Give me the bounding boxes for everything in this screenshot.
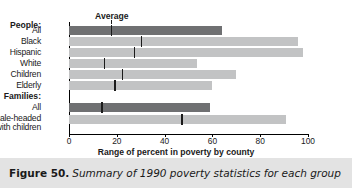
x-tick-label-0: 0: [67, 137, 72, 146]
chart-panel: Average People:AllBlackHispanicWhiteChil…: [0, 0, 352, 150]
average-marker: [141, 36, 142, 47]
bar-white: [69, 59, 197, 68]
bar-elderly: [69, 81, 212, 90]
category-label-elderly: Elderly: [16, 81, 41, 90]
average-annotation-leader: [111, 20, 112, 24]
figure-container: Average People:AllBlackHispanicWhiteChil…: [0, 0, 352, 188]
average-marker: [122, 69, 123, 80]
x-tick-label-40: 40: [160, 137, 169, 146]
bar-hispanic: [69, 48, 303, 57]
figure-caption: Figure 50. Summary of 1990 poverty stati…: [0, 167, 341, 179]
x-axis-line: [69, 134, 309, 135]
bar-black: [69, 37, 298, 46]
figure-number: Figure 50.: [9, 167, 69, 179]
bar-row: [69, 59, 308, 68]
average-marker: [134, 47, 135, 58]
bar-all: [69, 103, 210, 112]
average-marker: [181, 114, 182, 125]
x-tick-label-20: 20: [112, 137, 121, 146]
bar-row: [69, 48, 308, 57]
figure-caption-text: Summary of 1990 poverty statistics for e…: [72, 167, 341, 179]
figure-caption-bar: Figure 50. Summary of 1990 poverty stati…: [0, 158, 352, 188]
x-tick-label-80: 80: [256, 137, 265, 146]
bar-female-headed: [69, 115, 286, 124]
average-marker: [104, 58, 105, 69]
average-marker: [114, 80, 115, 91]
category-label-white: White: [20, 59, 41, 68]
category-label-all: All: [32, 103, 41, 112]
average-marker: [101, 102, 102, 113]
category-label-female-headed: Female-headedwith children: [0, 114, 41, 131]
bar-row: [69, 115, 308, 124]
average-marker: [111, 25, 112, 36]
group-header-families: Families:: [4, 92, 41, 101]
bar-row: [69, 37, 308, 46]
bar-row: [69, 26, 308, 35]
bar-children: [69, 70, 236, 79]
category-label-hispanic: Hispanic: [10, 48, 41, 57]
x-axis-title: Range of percent in poverty by county: [0, 147, 352, 157]
bar-all: [69, 26, 222, 35]
category-label-all: All: [32, 26, 41, 35]
bar-row: [69, 70, 308, 79]
x-tick-label-60: 60: [208, 137, 217, 146]
x-tick-label-100: 100: [301, 137, 315, 146]
bar-row: [69, 81, 308, 90]
category-label-black: Black: [21, 37, 41, 46]
category-label-children: Children: [11, 70, 41, 79]
bar-row: [69, 103, 308, 112]
